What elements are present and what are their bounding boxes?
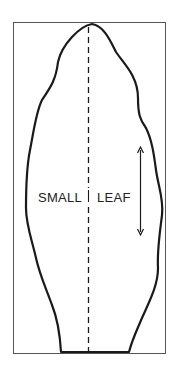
small-leaf-diagram: SMALL LEAF bbox=[0, 0, 178, 369]
label-small: SMALL bbox=[38, 190, 82, 205]
length-arrow bbox=[138, 147, 144, 235]
leaf-outline bbox=[26, 24, 162, 352]
label-leaf: LEAF bbox=[97, 190, 131, 205]
